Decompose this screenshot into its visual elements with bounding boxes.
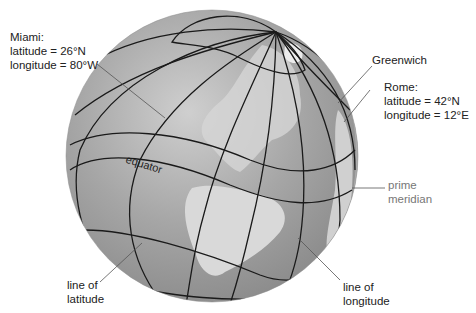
- rome-name: Rome:: [384, 80, 469, 94]
- greenwich-leader: [338, 66, 372, 103]
- greenwich-label: Greenwich: [372, 53, 427, 67]
- rome-label: Rome: latitude = 42°N longitude = 12°E: [384, 80, 469, 122]
- miami-longitude: longitude = 80°W: [10, 58, 98, 72]
- miami-latitude: latitude = 26°N: [10, 44, 98, 58]
- miami-name: Miami:: [10, 30, 98, 44]
- prime-meridian-label: prime meridian: [388, 178, 432, 206]
- rome-latitude: latitude = 42°N: [384, 94, 469, 108]
- line-of-latitude-label: line of latitude: [67, 278, 104, 306]
- rome-longitude: longitude = 12°E: [384, 108, 469, 122]
- miami-label: Miami: latitude = 26°N longitude = 80°W: [10, 30, 98, 72]
- line-of-longitude-label: line of longitude: [343, 280, 390, 308]
